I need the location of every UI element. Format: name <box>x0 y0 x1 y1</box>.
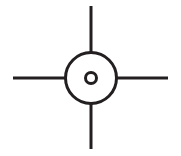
diagram-canvas <box>0 0 181 156</box>
crosshair-ring-symbol <box>0 0 181 156</box>
